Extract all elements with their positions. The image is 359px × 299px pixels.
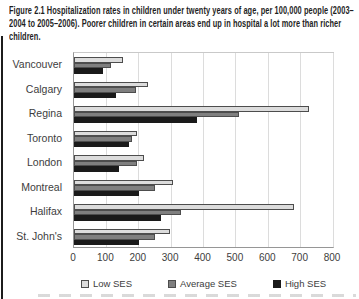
gridline-x-800	[333, 53, 334, 247]
gridline-x-400	[203, 53, 204, 247]
plot-area	[73, 52, 334, 248]
figure-2-1: Figure 2.1 Hospitalization rates in chil…	[0, 0, 359, 299]
bar-london-high-ses	[74, 166, 119, 172]
legend-item-low-ses: Low SES	[81, 278, 132, 289]
figure-caption: Figure 2.1 Hospitalization rates in chil…	[9, 4, 358, 43]
cropped-text-sliver	[38, 294, 356, 297]
gridline-x-600	[268, 53, 269, 247]
category-label-vancouver: Vancouver	[0, 52, 67, 77]
category-label-regina: Regina	[0, 101, 67, 126]
category-label-halifax: Halifax	[0, 199, 67, 224]
x-tick-label-800: 800	[317, 252, 347, 263]
legend-item-average-ses: Average SES	[168, 278, 237, 289]
legend-swatch-high-ses	[273, 280, 281, 288]
legend-label-low-ses: Low SES	[93, 278, 132, 289]
legend-swatch-average-ses	[168, 280, 176, 288]
gridline-x-700	[300, 53, 301, 247]
x-tick-label-400: 400	[188, 252, 218, 263]
x-tick-label-500: 500	[220, 252, 250, 263]
bar-calgary-high-ses	[74, 93, 116, 99]
category-label-toronto: Toronto	[0, 126, 67, 151]
bar-montreal-high-ses	[74, 191, 139, 197]
gridline-x-500	[235, 53, 236, 247]
chart-legend: Low SESAverage SESHigh SES	[73, 278, 334, 289]
x-tick-label-100: 100	[90, 252, 120, 263]
legend-swatch-low-ses	[81, 280, 89, 288]
category-label-st-john-s: St. John's	[0, 224, 67, 249]
legend-label-high-ses: High SES	[285, 278, 326, 289]
x-tick-label-300: 300	[155, 252, 185, 263]
bar-vancouver-high-ses	[74, 68, 103, 74]
x-tick-label-0: 0	[58, 252, 88, 263]
category-label-calgary: Calgary	[0, 77, 67, 102]
legend-item-high-ses: High SES	[273, 278, 326, 289]
category-label-montreal: Montreal	[0, 175, 67, 200]
bar-regina-high-ses	[74, 117, 197, 123]
category-label-london: London	[0, 150, 67, 175]
x-tick-label-700: 700	[285, 252, 315, 263]
bar-toronto-high-ses	[74, 142, 129, 148]
x-tick-label-600: 600	[252, 252, 282, 263]
legend-label-average-ses: Average SES	[180, 278, 237, 289]
gridline-x-300	[171, 53, 172, 247]
category-axis-labels: VancouverCalgaryReginaTorontoLondonMontr…	[0, 52, 67, 248]
x-tick-label-200: 200	[123, 252, 153, 263]
bar-halifax-high-ses	[74, 215, 161, 221]
x-axis-tick-labels: 0100200300400500600700800	[73, 252, 334, 264]
bar-st-john-s-high-ses	[74, 240, 139, 246]
